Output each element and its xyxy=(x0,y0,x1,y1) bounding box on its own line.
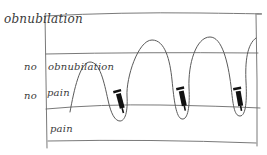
frame-right-line xyxy=(256,14,257,146)
label-no-pain: pain xyxy=(47,88,70,98)
pain-divider xyxy=(46,105,260,109)
label-no-obnubilation-prefix: no xyxy=(24,62,37,72)
syringe-icon xyxy=(176,86,189,111)
frame-left-line xyxy=(45,15,47,148)
label-pain: pain xyxy=(50,124,73,134)
label-no-obnubilation: obnubilation xyxy=(48,62,114,72)
syringe-icon xyxy=(233,87,245,112)
obnubilation-divider xyxy=(46,53,258,54)
wave-curve xyxy=(70,37,256,121)
syringe-icon xyxy=(113,89,127,114)
bottom-line xyxy=(48,140,256,143)
label-no-pain-prefix: no xyxy=(24,91,37,101)
label-obnubilation: obnubilation xyxy=(4,13,83,25)
